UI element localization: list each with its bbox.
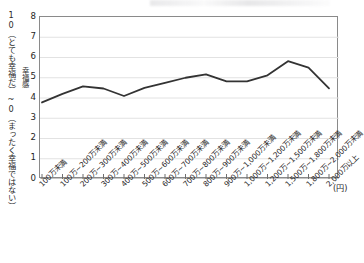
y-tick-6: 6 — [22, 52, 36, 61]
y-tick-1: 1 — [22, 153, 36, 162]
y-tick-7: 7 — [22, 32, 36, 41]
x-axis-unit-label: (円) — [333, 181, 347, 193]
y-tick-8: 8 — [22, 12, 36, 21]
y-tick-0: 0 — [22, 174, 36, 183]
y-tick-5: 5 — [22, 72, 36, 81]
gridlines — [40, 37, 339, 179]
data-series-line — [42, 61, 329, 102]
y-axis-outer-caption: 10（とても幸福だ）~0（まったく幸福ではない） — [1, 10, 15, 180]
y-tick-2: 2 — [22, 133, 36, 142]
plot-area — [39, 16, 338, 178]
y-tick-3: 3 — [22, 113, 36, 122]
x-axis-tick-marks — [42, 174, 329, 179]
y-tick-4: 4 — [22, 93, 36, 102]
plot-svg — [40, 17, 339, 179]
